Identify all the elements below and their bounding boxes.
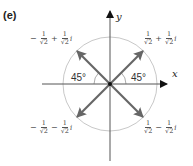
- operator: −: [155, 123, 162, 132]
- angle-label-left: 45°: [71, 72, 86, 83]
- operator: −: [51, 123, 58, 132]
- y-axis-label: y: [116, 11, 122, 22]
- label-lower-right: 1√2 − 1√2 i: [143, 120, 177, 135]
- sign: −: [30, 123, 37, 132]
- imaginary-unit: i: [70, 124, 72, 132]
- operator: +: [51, 34, 58, 43]
- angle-arc-right: [121, 73, 126, 84]
- fraction-imag: 1√2: [165, 120, 173, 135]
- imaginary-unit: i: [174, 35, 176, 43]
- label-upper-left: − 1√2 + 1√2 i: [28, 31, 72, 46]
- label-upper-right: 1√2 + 1√2 i: [143, 31, 177, 46]
- sign: −: [30, 34, 37, 43]
- imaginary-unit: i: [174, 124, 176, 132]
- fraction-imag: 1√2: [61, 120, 69, 135]
- vector-lower-left: [77, 84, 110, 117]
- fraction-real: 1√2: [40, 31, 48, 46]
- vector-lower-right: [110, 84, 143, 117]
- fraction-imag: 1√2: [61, 31, 69, 46]
- label-lower-left: − 1√2 − 1√2 i: [28, 120, 72, 135]
- operator: +: [155, 34, 162, 43]
- angle-arc-left: [94, 73, 99, 84]
- fraction-real: 1√2: [40, 120, 48, 135]
- fraction-real: 1√2: [144, 120, 152, 135]
- fraction-imag: 1√2: [165, 31, 173, 46]
- x-axis-label: x: [172, 68, 178, 79]
- unit-circle-diagram: [0, 0, 193, 166]
- imaginary-unit: i: [70, 35, 72, 43]
- origin-dot: [108, 82, 112, 86]
- fraction-real: 1√2: [144, 31, 152, 46]
- angle-label-right: 45°: [131, 72, 146, 83]
